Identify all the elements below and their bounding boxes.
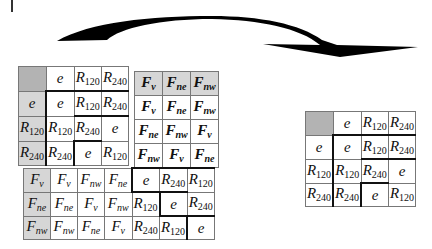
table-cell: R120 [361,135,389,159]
table-cell: Fne [78,216,105,240]
table-cell: e [74,141,102,166]
table-cell: R240 [187,192,215,216]
table-cell: e [389,159,416,183]
table-cell: R240 [389,135,416,159]
table-cell: R240 [46,141,74,166]
result-table: e R120 R240 e e R120 R240 R120 R120 R240… [305,111,416,207]
table-cell: Fv [105,216,133,240]
curved-arrow-icon [0,0,432,70]
row-header-cell: Fv [24,168,51,192]
header-cell: Fne [163,72,191,96]
row-header-cell: Fne [24,192,51,216]
header-cell: R120 [74,67,102,92]
table-cell: e [361,183,389,207]
table-cell: Fv [191,120,219,144]
table-cell: R240 [74,116,102,141]
table-cell: Fne [163,96,191,120]
table-cell: Fne [191,144,219,168]
table-cell: Fnw [105,192,133,216]
table-cell: Fv [163,144,191,168]
table-cell: e [102,116,129,141]
table-cell: Fv [135,96,163,120]
row-header-cell: R120 [19,116,47,141]
table-cell: Fne [51,192,78,216]
table-cell: Fv [78,192,105,216]
table-cell: Fne [105,168,133,192]
row-header-cell: R240 [19,141,47,166]
row-header-cell: Fnw [24,216,51,240]
table-cell: e [132,168,160,192]
table-cell: Fnw [135,144,163,168]
table-cell: e [333,135,361,159]
reflection-table: Fv Fne Fnw Fv Fne Fnw Fne Fnw Fv Fnw Fv … [134,71,219,168]
row-header-cell: R120 [306,159,334,183]
table-cell: R120 [160,216,188,240]
table-cell: R120 [187,168,215,192]
table-cell: R240 [132,216,160,240]
header-cell: Fnw [191,72,219,96]
table-cell: R120 [132,192,160,216]
corner-cell [19,67,47,92]
table-cell: R120 [46,116,74,141]
row-header-cell: e [19,91,47,116]
row-header-cell: R240 [306,183,334,207]
table-cell: Fv [51,168,78,192]
table-cell: R240 [333,183,361,207]
lower-composite-table: Fv Fv Fnw Fne e R240 R120 Fne Fne Fv Fnw… [23,167,215,240]
table-cell: Fnw [51,216,78,240]
corner-cell [306,112,334,136]
rotation-table: e R120 R240 e e R120 R240 R120 R120 R240… [18,66,129,166]
table-cell: R120 [389,183,416,207]
table-cell: Fnw [191,96,219,120]
row-header-cell: e [306,135,334,159]
table-cell: R120 [102,141,129,166]
header-cell: e [333,112,361,136]
table-cell: R120 [333,159,361,183]
header-cell: e [46,67,74,92]
table-cell: Fne [135,120,163,144]
table-cell: R240 [102,91,129,116]
table-cell: e [187,216,215,240]
table-cell: e [160,192,188,216]
table-cell: R240 [160,168,188,192]
header-cell: Fv [135,72,163,96]
header-cell: R240 [102,67,129,92]
table-cell: Fnw [78,168,105,192]
table-cell: e [46,91,74,116]
header-cell: R240 [389,112,416,136]
table-cell: R120 [74,91,102,116]
table-cell: R240 [361,159,389,183]
table-cell: Fnw [163,120,191,144]
header-cell: R120 [361,112,389,136]
